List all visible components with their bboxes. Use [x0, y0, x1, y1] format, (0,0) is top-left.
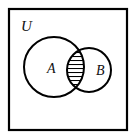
venn-diagram-canvas: U A B [0, 0, 137, 139]
set-b-label: B [96, 63, 105, 78]
venn-diagram-figure: U A B [0, 0, 137, 139]
universal-set-label: U [21, 18, 33, 34]
set-a-label: A [46, 61, 56, 76]
